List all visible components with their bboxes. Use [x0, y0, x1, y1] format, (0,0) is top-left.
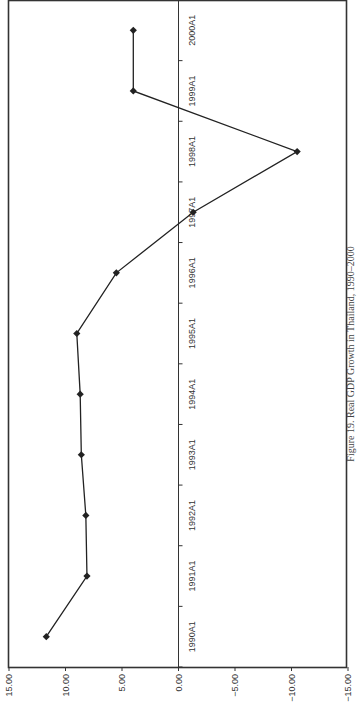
data-point-marker: [130, 27, 137, 34]
category-label: 1990A1: [187, 621, 197, 652]
category-label: 1995A1: [187, 318, 197, 349]
data-point-marker: [130, 87, 137, 94]
category-label: 1992A1: [187, 500, 197, 531]
category-ticks: [179, 0, 183, 667]
chart-caption: Figure 19. Real GDP Growth in Thailand, …: [345, 246, 356, 461]
value-tick-label: 5.00: [117, 674, 127, 692]
value-tick-label: −10.00: [287, 674, 297, 702]
category-label: 1994A1: [187, 379, 197, 410]
line-chart: 1990A11991A11992A11993A11994A11995A11996…: [0, 0, 358, 708]
series-line: [46, 30, 297, 636]
category-labels: 1990A11991A11992A11993A11994A11995A11996…: [187, 15, 197, 652]
data-point-marker: [43, 633, 50, 640]
data-point-marker: [83, 572, 90, 579]
value-labels: 15.0010.005.000.00−5.00−10.00−15.00: [4, 674, 353, 702]
category-label: 1993A1: [187, 439, 197, 470]
data-point-marker: [78, 451, 85, 458]
category-label: 1991A1: [187, 561, 197, 592]
value-tick-label: −15.00: [343, 674, 353, 702]
data-point-marker: [73, 330, 80, 337]
category-label: 1998A1: [187, 136, 197, 167]
category-label: 1999A1: [187, 75, 197, 106]
value-tick-label: 15.00: [4, 674, 14, 697]
plot-frame: [9, 1, 347, 668]
value-tick-label: 0.00: [174, 674, 184, 692]
series-markers: [43, 27, 301, 641]
data-point-marker: [294, 148, 301, 155]
value-tick-label: 10.00: [61, 674, 71, 697]
data-point-marker: [77, 391, 84, 398]
data-point-marker: [82, 512, 89, 519]
category-label: 2000A1: [187, 15, 197, 46]
value-tick-label: −5.00: [230, 674, 240, 697]
category-label: 1996A1: [187, 257, 197, 288]
